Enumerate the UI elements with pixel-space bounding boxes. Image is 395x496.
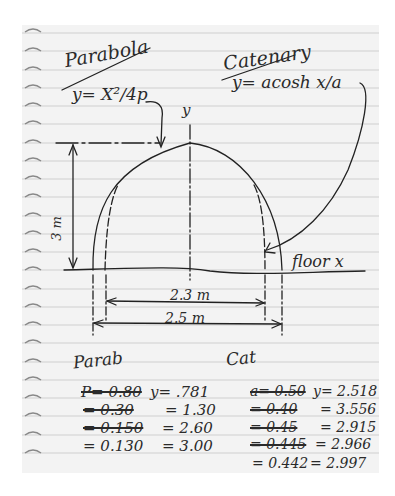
parab-p-2: = 0.150 (83, 421, 143, 436)
cat-a-2: = 0.45 (250, 420, 297, 434)
cat-a-4: = 0.442 (252, 456, 308, 470)
cat-y-4: = 2.997 (310, 456, 366, 470)
cat-a-3: = 0.445 (250, 437, 306, 451)
cat-y-2: = 2.915 (320, 420, 376, 434)
outer-width-label: 2.5 m (165, 311, 205, 325)
parab-p-1: = 0.30 (83, 403, 134, 418)
cat-y-0: y= 2.518 (313, 384, 377, 398)
spiral-holes (25, 29, 41, 453)
parab-y-3: = 3.00 (162, 439, 213, 454)
cat-heading: Cat (225, 348, 257, 368)
inner-width-label: 2.3 m (170, 288, 210, 302)
parab-y-2: = 2.60 (162, 421, 213, 436)
cat-y-1: = 3.556 (320, 402, 376, 416)
cat-a-1: = 0.40 (250, 402, 297, 416)
height-dimension-label: 3 m (50, 216, 63, 241)
parab-y-0: y= .781 (150, 385, 209, 400)
parab-y-1: = 1.30 (165, 403, 216, 418)
cat-y-3: = 2.966 (315, 437, 371, 451)
parab-p-3: = 0.130 (83, 439, 143, 454)
cat-a-0: a= 0.50 (250, 384, 306, 398)
equation-catenary: y= acosh x/a (232, 74, 342, 91)
parab-p-0: P= 0.80 (81, 385, 142, 400)
floor-axis-label: floor x (292, 254, 344, 270)
equation-parabola: y= X²/4p (72, 86, 148, 103)
y-axis-label: y (182, 103, 190, 118)
